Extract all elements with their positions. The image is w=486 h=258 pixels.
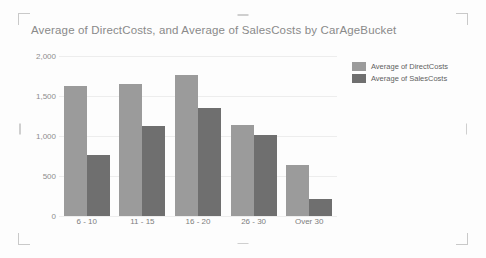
x-axis-tick-label: 26 - 30 — [226, 217, 282, 226]
y-axis-tick-label: 2,000 — [36, 52, 56, 61]
bar-salescosts[interactable] — [198, 108, 221, 216]
bar-group — [59, 56, 115, 216]
legend-swatch-icon — [352, 74, 366, 83]
y-axis: 05001,0001,5002,000 — [22, 56, 56, 216]
chart-visual-container[interactable]: Average of DirectCosts, and Average of S… — [0, 0, 486, 258]
bar-group — [281, 56, 337, 216]
y-axis-tick-label: 1,500 — [36, 92, 56, 101]
y-axis-tick-label: 0 — [52, 212, 56, 221]
legend-item[interactable]: Average of SalesCosts — [352, 74, 448, 83]
bar-directcosts[interactable] — [286, 165, 309, 216]
legend-item-label: Average of DirectCosts — [371, 62, 448, 71]
plot-area: 05001,0001,5002,000 6 - 1011 - 1516 - 20… — [0, 0, 486, 258]
bar-groups — [59, 56, 337, 216]
bar-directcosts[interactable] — [231, 125, 254, 216]
bar-salescosts[interactable] — [309, 199, 332, 216]
bar-salescosts[interactable] — [142, 126, 165, 216]
bar-directcosts[interactable] — [64, 86, 87, 216]
legend-swatch-icon — [352, 62, 366, 71]
legend-item[interactable]: Average of DirectCosts — [352, 62, 448, 71]
x-axis-tick-label: 6 - 10 — [59, 217, 115, 226]
y-axis-tick-label: 1,000 — [36, 132, 56, 141]
bar-group — [115, 56, 171, 216]
bar-group — [170, 56, 226, 216]
y-axis-tick-label: 500 — [43, 172, 56, 181]
chart-legend[interactable]: Average of DirectCostsAverage of SalesCo… — [352, 62, 448, 86]
legend-item-label: Average of SalesCosts — [371, 74, 447, 83]
bar-salescosts[interactable] — [254, 135, 277, 216]
bar-directcosts[interactable] — [175, 75, 198, 216]
bar-group — [226, 56, 282, 216]
x-axis: 6 - 1011 - 1516 - 2026 - 30Over 30 — [59, 217, 337, 226]
x-axis-tick-label: 16 - 20 — [170, 217, 226, 226]
bar-salescosts[interactable] — [87, 155, 110, 216]
x-axis-tick-label: 11 - 15 — [115, 217, 171, 226]
x-axis-tick-label: Over 30 — [281, 217, 337, 226]
bar-directcosts[interactable] — [119, 84, 142, 216]
